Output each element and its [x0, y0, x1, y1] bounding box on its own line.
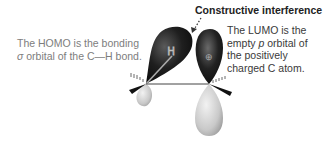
hashed-bond-left [131, 73, 143, 82]
dotted-arrow-icon [191, 18, 201, 33]
hashed-bond-right [213, 76, 225, 83]
lumo-p-bottom-lobe [195, 84, 223, 136]
hydrogen-label: H [167, 46, 174, 57]
orbital-diagram: H ⊕ [0, 0, 334, 143]
positive-charge-icon: ⊕ [205, 52, 213, 62]
